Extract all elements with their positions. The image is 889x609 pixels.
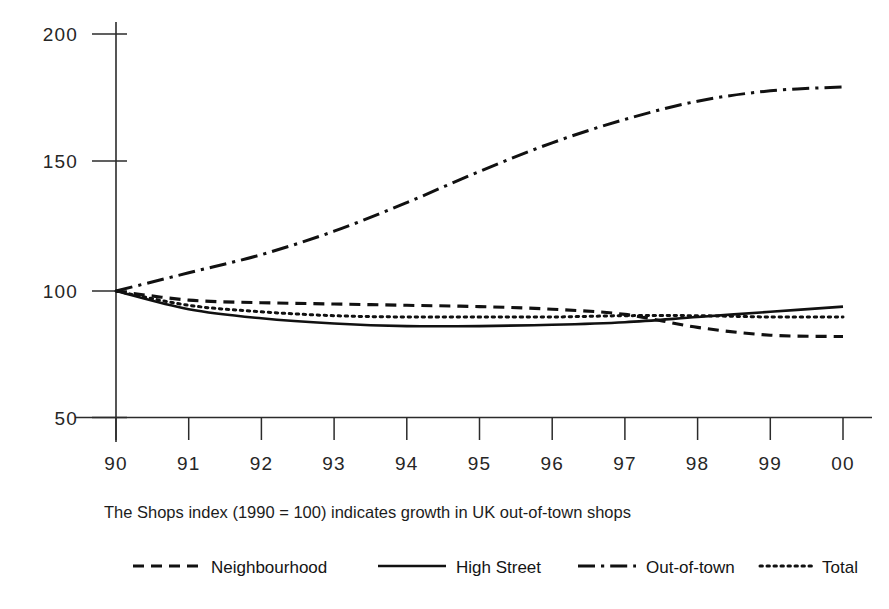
x-tick-label-97: 97 xyxy=(613,453,637,474)
y-tick-label-50: 50 xyxy=(54,408,78,429)
y-ticks-group xyxy=(92,34,127,418)
legend-item-out-of-town[interactable]: Out-of-town xyxy=(578,558,735,577)
x-tick-label-98: 98 xyxy=(686,453,710,474)
x-tick-label-91: 91 xyxy=(177,453,201,474)
legend-label-neighbourhood: Neighbourhood xyxy=(211,558,327,577)
legend-item-high-street[interactable]: High Street xyxy=(378,558,541,577)
axes-group xyxy=(75,22,872,442)
y-tick-label-200: 200 xyxy=(43,24,78,45)
series-group xyxy=(116,87,843,337)
legend-item-total[interactable]: Total xyxy=(760,558,858,577)
x-tick-label-95: 95 xyxy=(468,453,492,474)
y-tick-label-150: 150 xyxy=(43,151,78,172)
legend: Neighbourhood High Street Out-of-town To… xyxy=(133,558,858,577)
x-tick-label-94: 94 xyxy=(395,453,419,474)
y-tick-label-100: 100 xyxy=(43,281,78,302)
legend-item-neighbourhood[interactable]: Neighbourhood xyxy=(133,558,327,577)
series-line-out-of-town xyxy=(116,87,843,291)
shops-index-line-chart: 200 150 100 50 90 91 92 93 94 95 96 xyxy=(0,0,889,609)
x-tick-label-90: 90 xyxy=(104,453,128,474)
chart-caption: The Shops index (1990 = 100) indicates g… xyxy=(104,503,631,521)
x-tick-label-00: 00 xyxy=(831,453,855,474)
x-tick-label-99: 99 xyxy=(759,453,783,474)
x-tick-label-93: 93 xyxy=(322,453,346,474)
legend-label-high-street: High Street xyxy=(456,558,541,577)
legend-label-out-of-town: Out-of-town xyxy=(646,558,735,577)
x-tick-labels-group: 90 91 92 93 94 95 96 97 98 99 00 xyxy=(104,453,855,474)
x-tick-label-96: 96 xyxy=(540,453,564,474)
chart-figure: 200 150 100 50 90 91 92 93 94 95 96 xyxy=(0,0,889,609)
x-tick-label-92: 92 xyxy=(250,453,274,474)
x-ticks-group xyxy=(116,418,843,441)
y-tick-labels-group: 200 150 100 50 xyxy=(43,24,78,429)
legend-label-total: Total xyxy=(822,558,858,577)
